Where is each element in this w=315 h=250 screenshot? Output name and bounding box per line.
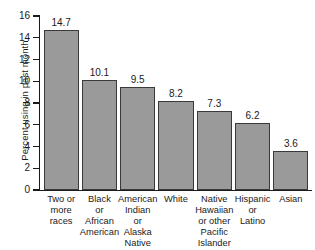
bar bbox=[158, 101, 193, 190]
bar-chart: Percent using in past month 161412108642… bbox=[0, 0, 315, 250]
x-category-label-line: Native bbox=[113, 238, 162, 249]
y-tick-label: 14 bbox=[0, 33, 30, 43]
x-category-label-line: or bbox=[113, 216, 162, 227]
bar bbox=[44, 30, 79, 190]
y-tick-label: 2 bbox=[0, 163, 30, 173]
bar-value-label: 9.5 bbox=[114, 74, 161, 85]
y-tick-label: 10 bbox=[0, 76, 30, 86]
y-tick bbox=[33, 81, 39, 82]
y-tick-label: 8 bbox=[0, 98, 30, 108]
y-tick bbox=[33, 102, 39, 103]
plot-area bbox=[40, 16, 312, 190]
bar bbox=[197, 111, 232, 190]
x-category-label: Asian bbox=[266, 194, 315, 205]
bar bbox=[273, 151, 308, 190]
x-category-label-line: Latino bbox=[228, 216, 277, 227]
y-tick-label: 16 bbox=[0, 11, 30, 21]
x-category-label-line: Alaska bbox=[113, 227, 162, 238]
bar bbox=[120, 87, 155, 190]
bar-value-label: 3.6 bbox=[267, 138, 314, 149]
bar-value-label: 7.3 bbox=[191, 98, 238, 109]
y-tick bbox=[33, 124, 39, 125]
y-tick-label: 6 bbox=[0, 120, 30, 130]
y-tick bbox=[33, 146, 39, 147]
bar bbox=[82, 80, 117, 190]
x-category-label-line: Pacific bbox=[190, 227, 239, 238]
bar-value-label: 14.7 bbox=[38, 17, 85, 28]
y-tick bbox=[33, 59, 39, 60]
x-category-label-line: Asian bbox=[266, 194, 315, 205]
bar bbox=[235, 123, 270, 190]
y-tick bbox=[33, 168, 39, 169]
x-category-label-line: or bbox=[228, 205, 277, 216]
x-axis-line bbox=[39, 190, 312, 191]
y-tick-label: 0 bbox=[0, 185, 30, 195]
x-category-label-line: Islander bbox=[190, 238, 239, 249]
bar-value-label: 6.2 bbox=[229, 110, 276, 121]
y-tick bbox=[33, 37, 39, 38]
y-tick bbox=[33, 189, 39, 190]
y-tick-label: 4 bbox=[0, 142, 30, 152]
y-tick-label: 12 bbox=[0, 55, 30, 65]
x-category-label-line: Indian bbox=[113, 205, 162, 216]
